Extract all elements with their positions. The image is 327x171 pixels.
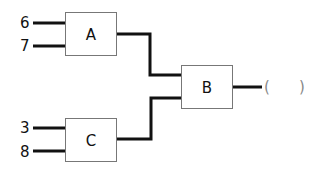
- input-label-6: 6: [20, 14, 30, 32]
- wire-a-to-b: [116, 34, 181, 75]
- box-b-label: B: [202, 79, 212, 97]
- input-label-3: 3: [20, 119, 30, 137]
- input-label-7: 7: [20, 37, 30, 55]
- logic-diagram: 6 7 3 8 A B C ( ): [0, 0, 327, 171]
- input-label-8: 8: [20, 143, 30, 161]
- box-a-label: A: [86, 26, 97, 44]
- output-open-paren: (: [264, 78, 270, 96]
- output-close-paren: ): [299, 78, 305, 96]
- box-c-label: C: [86, 132, 96, 150]
- wire-c-to-b: [116, 98, 181, 139]
